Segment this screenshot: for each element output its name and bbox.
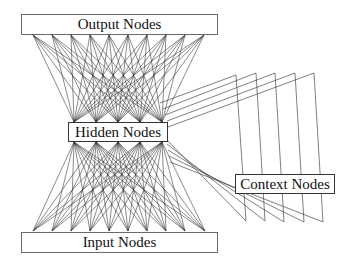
output-hidden-connection [71, 35, 74, 122]
hidden-input-connection [140, 142, 147, 231]
hidden-nodes-box: Hidden Nodes [68, 122, 168, 142]
connection-lines [0, 0, 351, 267]
hidden-input-connection [140, 142, 166, 231]
output-nodes-box: Output Nodes [21, 14, 218, 35]
hidden-input-connection [71, 142, 118, 231]
network-diagram: Output Nodes Hidden Nodes Context Nodes … [0, 0, 351, 267]
hidden-input-connection [128, 142, 162, 231]
hidden-input-connection [96, 142, 185, 231]
output-hidden-connection [96, 35, 185, 122]
output-nodes-label: Output Nodes [78, 16, 162, 33]
hidden-input-connection [96, 142, 205, 231]
output-hidden-connection [71, 35, 96, 122]
output-hidden-connection [52, 35, 140, 122]
context-feedback-connection [167, 73, 304, 222]
output-hidden-connection [52, 35, 74, 122]
hidden-input-connection [140, 142, 205, 231]
output-hidden-connection [128, 35, 162, 122]
output-hidden-connection [52, 35, 96, 122]
hidden-input-connection [52, 142, 96, 231]
input-nodes-box: Input Nodes [21, 232, 218, 253]
output-hidden-connection [33, 35, 74, 122]
output-hidden-connection [118, 35, 166, 122]
hidden-input-connection [71, 142, 96, 231]
output-hidden-connection [140, 35, 147, 122]
hidden-input-connection [33, 142, 74, 231]
output-hidden-connection [71, 35, 118, 122]
output-hidden-connection [140, 35, 166, 122]
hidden-nodes-label: Hidden Nodes [75, 124, 161, 141]
context-nodes-box: Context Nodes [235, 174, 335, 194]
output-hidden-connection [147, 35, 162, 122]
hidden-input-connection [52, 142, 74, 231]
hidden-input-connection [118, 142, 166, 231]
context-feedback-connection [160, 75, 246, 221]
context-nodes-label: Context Nodes [240, 176, 330, 193]
input-nodes-label: Input Nodes [83, 234, 157, 251]
hidden-input-connection [71, 142, 74, 231]
context-feedback-connection [163, 73, 265, 221]
output-hidden-connection [74, 35, 204, 122]
hidden-input-connection [52, 142, 140, 231]
hidden-input-connection [147, 142, 162, 231]
